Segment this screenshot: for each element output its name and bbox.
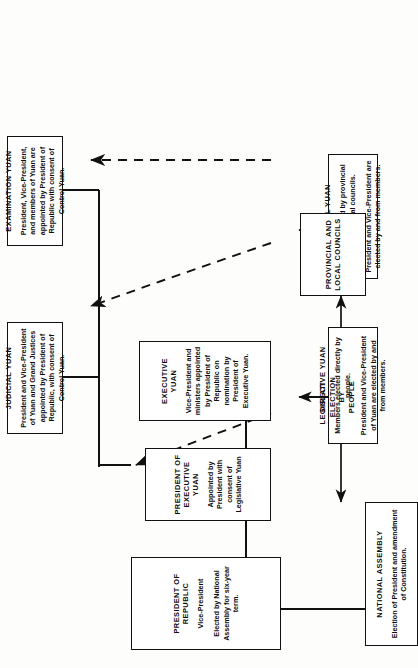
connector-to-examination	[62, 189, 99, 191]
box-national-assembly[interactable]: NATIONAL ASSEMBLY Election of President …	[365, 502, 418, 646]
box-judicial-yuan[interactable]: JUDICIAL YUAN President and Vice-Preside…	[7, 322, 63, 434]
box-body-line: Vice-President	[196, 579, 205, 629]
box-title: JUDICIAL YUAN	[4, 347, 13, 410]
box-body-line: Elected by National Assembly for six-yea…	[212, 562, 240, 645]
box-body-line: President, Vice-President, and members o…	[19, 141, 66, 241]
box-body-line: Appointed by President with consent of L…	[206, 453, 244, 516]
connector-president-to-pexec	[245, 521, 247, 557]
dashed-control-to-judicial	[91, 243, 271, 306]
box-executive-yuan[interactable]: EXECUTIVE YUAN Vice-President and minist…	[139, 341, 271, 421]
box-body-line: Vice-President and ministers appointed b…	[184, 346, 250, 416]
connector-top-bus	[98, 190, 100, 467]
box-body-line: President and Vice-President are elected…	[364, 159, 383, 274]
label-direct-election-by-people: DIRECT ELECTION BY PEOPLE	[318, 364, 356, 430]
connector-to-judicial	[62, 376, 99, 378]
box-body-line: Election of President and amendment of C…	[390, 507, 409, 641]
connector-pexec-to-exec	[245, 421, 247, 448]
box-title: PRESIDENT OF REPUBLIC	[172, 562, 190, 645]
box-provincial-and-local-councils[interactable]: PROVINCIAL AND LOCAL COUNCILS	[300, 213, 366, 296]
box-title: PRESIDENT OF EXECUTIVE YUAN	[173, 453, 200, 516]
box-title: EXAMINATION YUAN	[4, 150, 13, 231]
box-title: EXECUTIVE YUAN	[160, 346, 178, 416]
box-president-of-republic[interactable]: PRESIDENT OF REPUBLIC Vice-President Ele…	[131, 557, 281, 650]
box-president-of-executive-yuan[interactable]: PRESIDENT OF EXECUTIVE YUAN Appointed by…	[145, 448, 271, 521]
box-body-line: President and Vice-President of Yuan are…	[359, 332, 387, 439]
box-title: NATIONAL ASSEMBLY	[375, 530, 384, 617]
connector-president-spine	[98, 464, 131, 466]
box-body-line: President and Vice-President of Yuan and…	[19, 327, 66, 429]
connector-president-to-assembly	[281, 608, 365, 610]
box-examination-yuan[interactable]: EXAMINATION YUAN President, Vice-Preside…	[7, 136, 63, 246]
box-title: PROVINCIAL AND LOCAL COUNCILS	[324, 218, 342, 291]
